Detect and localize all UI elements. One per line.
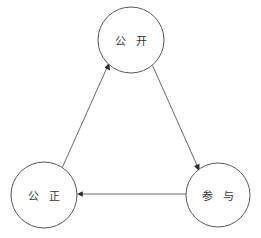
diagram-canvas: 公 开 公 正 参 与 <box>0 0 261 238</box>
edge-gongkai-to-canyu <box>153 66 200 172</box>
node-label-gongzheng: 公 正 <box>25 191 63 202</box>
edge-gongzheng-to-gongkai <box>63 63 111 167</box>
node-label-canyu: 参 与 <box>199 191 237 202</box>
arrowhead-into-gongzheng <box>77 191 83 196</box>
node-label-gongkai: 公 开 <box>112 36 150 47</box>
edge-line-gongzheng-gongkai <box>63 67 108 168</box>
edge-canyu-to-gongzheng <box>77 191 186 196</box>
edge-line-gongkai-canyu <box>153 66 199 168</box>
